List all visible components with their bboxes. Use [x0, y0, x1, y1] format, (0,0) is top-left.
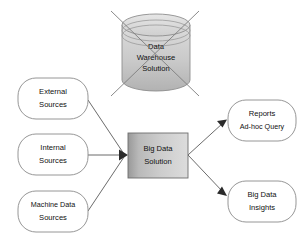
big-data-architecture-diagram: Data Warehouse Solution External [0, 0, 302, 252]
source-node-external[interactable]: External Sources [18, 78, 88, 119]
reports-label-line1: Reports [249, 109, 276, 118]
machine-data-sources-label-line1: Machine Data [31, 200, 75, 209]
external-sources-label-line2: Sources [39, 100, 67, 109]
internal-sources-shape [18, 134, 88, 175]
machine-data-sources-shape [18, 191, 88, 232]
external-sources-label-line1: External [39, 87, 67, 96]
internal-sources-label-line2: Sources [39, 156, 67, 165]
insights-arrow-head-icon [217, 187, 227, 197]
data-warehouse-label-line3: Solution [142, 64, 169, 73]
output-connectors [188, 120, 227, 197]
reports-adhoc-query-shape [228, 100, 296, 141]
big-data-solution-label-line1: Big Data [143, 144, 173, 153]
big-data-solution-node[interactable]: Big Data Solution [128, 133, 188, 178]
output-node-insights[interactable]: Big Data Insights [228, 181, 296, 222]
source-node-internal[interactable]: Internal Sources [18, 134, 88, 175]
connector-bigdata-to-insights [188, 155, 223, 192]
connector-external-to-bigdata [88, 100, 124, 154]
reports-label-line2: Ad-hoc Query [240, 122, 285, 131]
big-data-insights-shape [228, 181, 296, 222]
reports-arrow-head-icon [217, 120, 227, 128]
input-arrow-head-icon [119, 150, 128, 161]
source-node-machine-data[interactable]: Machine Data Sources [18, 191, 88, 232]
diagram-canvas: Data Warehouse Solution External [0, 0, 302, 252]
big-data-solution-shape [128, 133, 188, 178]
insights-label-line1: Big Data [247, 190, 277, 199]
input-connectors [88, 100, 128, 211]
output-node-reports[interactable]: Reports Ad-hoc Query [228, 100, 296, 141]
insights-label-line2: Insights [249, 203, 275, 212]
connector-bigdata-to-reports [188, 123, 223, 155]
big-data-solution-label-line2: Solution [144, 157, 171, 166]
internal-sources-label-line1: Internal [40, 143, 66, 152]
machine-data-sources-label-line2: Sources [39, 213, 67, 222]
connector-machine-to-bigdata [88, 157, 124, 211]
external-sources-shape [18, 78, 88, 119]
